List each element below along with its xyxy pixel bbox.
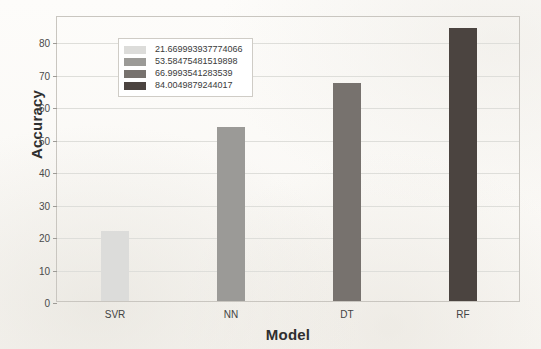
y-tick-label: 10 xyxy=(39,265,50,276)
legend-item-label: 84.0049879244017 xyxy=(155,81,233,90)
bar-svr xyxy=(101,231,129,301)
x-tick-label-nn: NN xyxy=(224,309,238,320)
y-tick-mark xyxy=(53,238,57,239)
y-tick-mark xyxy=(53,271,57,272)
legend-item-label: 66.9993541283539 xyxy=(155,69,233,78)
legend-item: 84.0049879244017 xyxy=(124,80,243,91)
y-axis-title: Accuracy xyxy=(28,65,45,185)
y-tick-mark xyxy=(53,141,57,142)
y-tick-label: 80 xyxy=(39,38,50,49)
legend-swatch-icon xyxy=(124,46,146,54)
y-tick-label: 50 xyxy=(39,135,50,146)
bar-rf xyxy=(449,28,477,301)
y-tick-label: 70 xyxy=(39,70,50,81)
y-tick-label: 20 xyxy=(39,233,50,244)
y-tick-mark xyxy=(53,76,57,77)
y-tick-mark xyxy=(53,108,57,109)
x-tick-label-svr: SVR xyxy=(105,309,126,320)
legend-swatch-icon xyxy=(124,58,146,66)
legend-item: 21.669993937774066 xyxy=(124,44,243,55)
y-tick-mark xyxy=(53,206,57,207)
bar-nn xyxy=(217,127,245,301)
y-tick-label: 0 xyxy=(44,298,50,309)
y-tick-label: 60 xyxy=(39,103,50,114)
x-axis-title: Model xyxy=(56,326,520,343)
chart-legend: 21.66999393777406653.5847548151989866.99… xyxy=(118,38,253,97)
bar-dt xyxy=(333,83,361,301)
y-tick-mark xyxy=(53,173,57,174)
legend-item-label: 53.58475481519898 xyxy=(155,57,238,66)
legend-item: 66.9993541283539 xyxy=(124,68,243,79)
x-tick-label-rf: RF xyxy=(456,309,469,320)
plot-area: 01020304050607080 SVRNNDTRF 21.669993937… xyxy=(56,16,520,302)
x-tick-label-dt: DT xyxy=(340,309,353,320)
bar-chart-figure: Accuracy 01020304050607080 SVRNNDTRF 21.… xyxy=(0,0,541,349)
y-tick-label: 30 xyxy=(39,200,50,211)
legend-swatch-icon xyxy=(124,82,146,90)
legend-item-label: 21.669993937774066 xyxy=(155,45,243,54)
legend-swatch-icon xyxy=(124,70,146,78)
legend-item: 53.58475481519898 xyxy=(124,56,243,67)
y-tick-label: 40 xyxy=(39,168,50,179)
y-tick-mark xyxy=(53,303,57,304)
y-tick-mark xyxy=(53,43,57,44)
